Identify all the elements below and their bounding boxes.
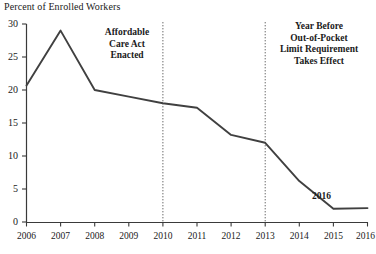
datapoint-label-2016: 2016	[312, 191, 331, 201]
chart-title: Percent of Enrolled Workers	[4, 1, 120, 12]
xtick-label-2007: 2007	[44, 231, 78, 241]
ytick-label-30: 30	[0, 19, 18, 29]
ytick-label-15: 15	[0, 118, 18, 128]
ytick-label-20: 20	[0, 85, 18, 95]
xtick-label-2010: 2010	[146, 231, 180, 241]
ytick-label-5: 5	[0, 184, 18, 194]
xtick-label-2015: 2015	[316, 231, 350, 241]
xtick-label-2008: 2008	[78, 231, 112, 241]
ytick-label-10: 10	[0, 151, 18, 161]
xtick-label-2013: 2013	[248, 231, 282, 241]
chart-figure: Percent of Enrolled Workers	[0, 0, 376, 254]
y-tick-marks	[22, 24, 27, 222]
annotation-affordable-care-act: Affordable Care Act Enacted	[96, 27, 158, 62]
xtick-label-2009: 2009	[112, 231, 146, 241]
annotation-out-of-pocket-limit: Year Before Out-of-Pocket Limit Requirem…	[269, 21, 369, 67]
xtick-label-2006: 2006	[10, 231, 44, 241]
xtick-label-2014: 2014	[282, 231, 316, 241]
xtick-label-2011: 2011	[180, 231, 214, 241]
ytick-label-0: 0	[0, 217, 18, 227]
xtick-label-2012: 2012	[214, 231, 248, 241]
xtick-label-2016: 2016	[349, 231, 376, 241]
ytick-label-25: 25	[0, 52, 18, 62]
